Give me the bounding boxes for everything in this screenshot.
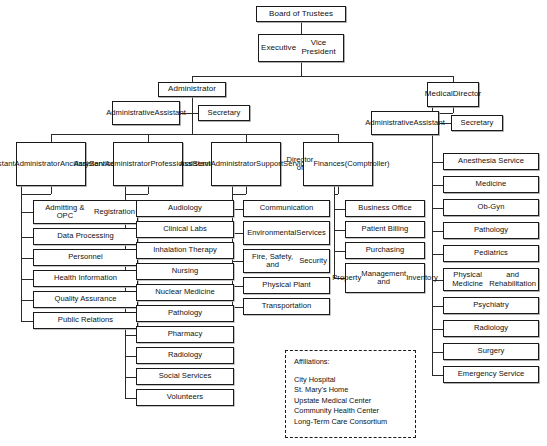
- node-administrator: Administrator: [158, 82, 226, 97]
- node-finances-item-1: Patient Billing: [345, 221, 425, 238]
- line-support-rail-jog: [232, 194, 246, 195]
- line-finances-stub-0: [334, 209, 345, 210]
- line-support-head-drop: [246, 186, 247, 194]
- node-division-head-support: AssistantAdministratorSupportServices: [211, 142, 281, 186]
- node-support-item-4: Transportation: [243, 298, 330, 315]
- node-medical-director-secretary: Secretary: [451, 115, 503, 131]
- line-professional-stub-8: [125, 377, 136, 378]
- line-professional-stub-7: [125, 356, 136, 357]
- node-professional-item-0: Audiology: [136, 200, 234, 217]
- node-professional-item-4: Nuclear Medicine: [136, 284, 234, 301]
- node-medical-service-9: Emergency Service: [443, 366, 539, 383]
- node-professional-item-1: Clinical Labs: [136, 221, 234, 238]
- line-support-stub-2: [232, 261, 243, 262]
- node-medical-service-8: Surgery: [443, 343, 539, 360]
- line-division-bus: [51, 134, 338, 135]
- node-support-item-0: Communication: [243, 200, 330, 217]
- line-medical-service-stub-1: [432, 185, 443, 186]
- line-ancillary-stub-0: [21, 212, 33, 213]
- affiliation-item: Community Health Center: [294, 406, 407, 417]
- line-finances-stub-2: [334, 251, 345, 252]
- node-medical-service-5: Physical Medicineand Rehabilitation: [443, 268, 539, 291]
- line-medical-service-stub-2: [432, 208, 443, 209]
- node-professional-item-3: Nursing: [136, 263, 234, 280]
- line-ancillary-stub-4: [21, 300, 33, 301]
- affiliation-item: St. Mary's Home: [294, 385, 407, 396]
- node-administrator-administrative-assistant: AdministrativeAssistant: [112, 101, 180, 125]
- node-ancillary-item-2: Personnel: [33, 249, 138, 266]
- line-ancillary-stub-2: [21, 258, 33, 259]
- line-medical-service-stub-0: [432, 162, 443, 163]
- line-medical-service-stub-6: [432, 306, 443, 307]
- line-division-drop-ancillary: [51, 134, 52, 142]
- line-medical-director-drop: [453, 107, 454, 113]
- affiliation-item: City Hospital: [294, 375, 407, 386]
- node-medical-service-7: Radiology: [443, 320, 539, 337]
- node-professional-item-6: Pharmacy: [136, 326, 234, 343]
- line-finances-head-drop: [338, 186, 339, 194]
- line-medical-service-stub-8: [432, 352, 443, 353]
- node-professional-item-7: Radiology: [136, 347, 234, 364]
- line-medical-service-stub-3: [432, 231, 443, 232]
- line-medical-service-stub-4: [432, 254, 443, 255]
- node-professional-item-2: Inhalation Therapy: [136, 242, 234, 259]
- line-finances-stub-1: [334, 230, 345, 231]
- affiliation-item: Upstate Medical Center: [294, 396, 407, 407]
- node-board-of-trustees: Board of Trustees: [256, 6, 346, 22]
- node-medical-service-1: Medicine: [443, 176, 539, 193]
- node-medical-service-2: Ob-Gyn: [443, 199, 539, 216]
- node-professional-item-5: Pathology: [136, 305, 234, 322]
- line-ancillary-stub-1: [21, 237, 33, 238]
- affiliations-label: Affiliations:: [294, 357, 407, 368]
- node-executive-vice-president: ExecutiveVice President: [258, 34, 344, 62]
- line-finances-rail: [334, 186, 335, 278]
- node-finances-item-0: Business Office: [345, 200, 425, 217]
- line-medical-services-rail: [432, 107, 433, 375]
- line-ancillary-rail: [21, 186, 22, 321]
- node-ancillary-item-4: Quality Assurance: [33, 291, 138, 308]
- node-ancillary-item-0: Admitting & OPCRegistration: [33, 200, 138, 224]
- node-medical-service-6: Psychiatry: [443, 297, 539, 314]
- node-division-head-finances: Director ofFinances(Comptroller): [303, 142, 373, 186]
- line-medical-service-stub-9: [432, 375, 443, 376]
- line-medical-service-stub-7: [432, 329, 443, 330]
- node-support-item-2: Fire, Safety, andSecurity: [243, 249, 330, 273]
- line-professional-head-drop: [148, 186, 149, 194]
- node-medical-director: MedicalDirector: [427, 82, 479, 107]
- line-professional-stub-6: [125, 335, 136, 336]
- node-professional-item-8: Social Services: [136, 368, 234, 385]
- node-ancillary-item-3: Health Information: [33, 270, 138, 287]
- line-professional-rail-jog: [125, 194, 148, 195]
- node-professional-item-9: Volunteers: [136, 389, 234, 406]
- node-medical-service-4: Pediatrics: [443, 245, 539, 262]
- node-support-item-3: Physical Plant: [243, 277, 330, 294]
- line-division-drop-professional: [148, 134, 149, 142]
- node-division-head-professional: AssistantAdministratorProfessionalServic…: [113, 142, 183, 186]
- line-finances-rail-jog: [334, 194, 338, 195]
- line-division-drop-support: [246, 134, 247, 142]
- node-ancillary-item-5: Public Relations: [33, 312, 138, 329]
- line-ancillary-rail-jog: [21, 194, 51, 195]
- line-board-to-execvp: [301, 22, 302, 34]
- line-execvp-down: [301, 62, 302, 76]
- node-administrator-secretary: Secretary: [198, 105, 250, 121]
- line-division-drop-finances: [338, 134, 339, 142]
- node-finances-item-3: PropertyManagement andInventory: [345, 263, 425, 293]
- line-professional-stub-9: [125, 398, 136, 399]
- node-ancillary-item-1: Data Processing: [33, 228, 138, 245]
- line-top-bus: [192, 76, 453, 77]
- line-administrator-down: [192, 97, 193, 134]
- line-ancillary-stub-5: [21, 321, 33, 322]
- line-ancillary-head-drop: [51, 186, 52, 194]
- affiliation-item: Long-Term Care Consortium: [294, 417, 407, 428]
- node-medical-service-0: Anesthesia Service: [443, 153, 539, 170]
- node-medical-service-3: Pathology: [443, 222, 539, 239]
- node-finances-item-2: Purchasing: [345, 242, 425, 259]
- line-ancillary-stub-3: [21, 279, 33, 280]
- org-chart: Board of TrusteesExecutiveVice President…: [0, 0, 547, 446]
- affiliations-box: Affiliations:City HospitalSt. Mary's Hom…: [285, 350, 416, 438]
- node-medical-director-administrative-assistant: AdministrativeAssistant: [371, 111, 439, 135]
- node-support-item-1: EnvironmentalServices: [243, 221, 330, 245]
